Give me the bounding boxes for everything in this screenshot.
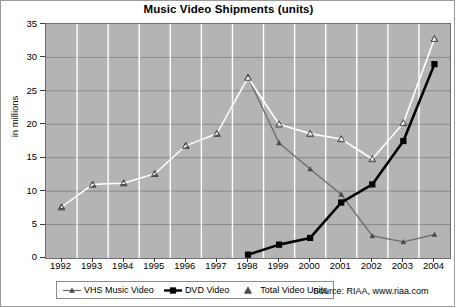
y-tick-label-35: 35: [1, 18, 37, 29]
data-point: [308, 235, 313, 240]
y-tick-label-30: 30: [1, 51, 37, 62]
data-series-layer: [58, 35, 438, 257]
plot-area: [45, 23, 451, 259]
data-point: [370, 182, 375, 187]
chart-legend: VHS Music VideoDVD VideoTotal Video Unit…: [56, 281, 334, 299]
series-line: [62, 77, 435, 241]
data-point: [339, 200, 344, 205]
y-tick-label-0: 0: [1, 251, 37, 262]
data-point: [432, 62, 437, 67]
horizontal-gridlines: [46, 57, 450, 224]
x-tick-label-2004: 2004: [413, 260, 453, 271]
series-total-video-units: [58, 35, 438, 210]
legend-item-dvd-video[interactable]: DVD Video: [163, 285, 229, 295]
source-note: Source: RIAA, www.riaa.com: [313, 286, 429, 296]
legend-label: VHS Music Video: [84, 285, 154, 295]
legend-item-vhs-music-video[interactable]: VHS Music Video: [62, 285, 154, 295]
legend-label: DVD Video: [185, 285, 229, 295]
y-tick-label-25: 25: [1, 85, 37, 96]
data-point: [276, 242, 281, 247]
data-point: [245, 252, 250, 257]
series-vhs-music-video: [59, 75, 437, 244]
series-line: [248, 64, 434, 255]
chart-title: Music Video Shipments (units): [1, 3, 455, 15]
vertical-gridlines: [77, 24, 419, 258]
series-line: [62, 39, 435, 207]
chart-container: Music Video Shipments (units) in million…: [0, 0, 455, 307]
data-point: [277, 141, 282, 145]
y-tick-label-20: 20: [1, 118, 37, 129]
legend-swatch-icon: [62, 286, 82, 295]
data-point: [401, 138, 406, 143]
legend-swatch-icon: [163, 286, 183, 295]
y-tick-label-10: 10: [1, 185, 37, 196]
plot-svg: [46, 24, 450, 258]
y-tick-label-15: 15: [1, 151, 37, 162]
y-tick-label-5: 5: [1, 218, 37, 229]
legend-swatch-icon: [238, 286, 258, 295]
